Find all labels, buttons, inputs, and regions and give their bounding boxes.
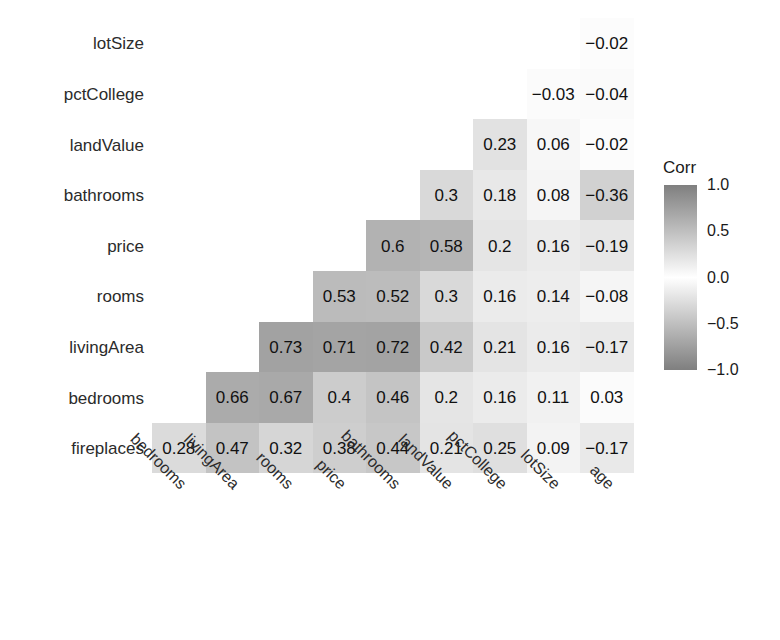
legend-tick-label: 0.5 <box>707 223 729 239</box>
correlation-heatmap: lotSizepctCollegelandValuebathroomsprice… <box>0 0 780 640</box>
legend-gradient-bar <box>664 185 697 370</box>
color-legend: Corr 1.00.50.0−0.5−1.0 <box>0 0 780 640</box>
legend-tick-label: −0.5 <box>707 316 739 332</box>
legend-tick-label: −1.0 <box>707 362 739 378</box>
legend-tick-label: 1.0 <box>707 177 729 193</box>
legend-tick-label: 0.0 <box>707 270 729 286</box>
legend-title: Corr <box>663 159 696 176</box>
